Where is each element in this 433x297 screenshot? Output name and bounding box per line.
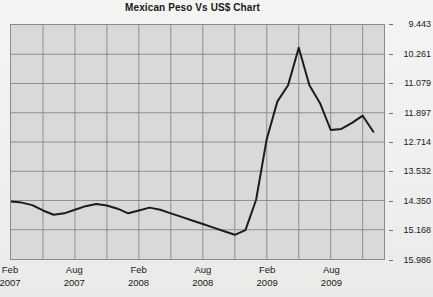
x-axis-tick-label: Feb2007 xyxy=(0,263,33,289)
y-tick-mark xyxy=(389,113,393,114)
x-tick-month: Aug xyxy=(180,263,226,276)
x-tick-year: 2009 xyxy=(244,276,290,289)
x-tick-month: Aug xyxy=(51,263,97,276)
y-axis-tick-label: 9.443 xyxy=(408,20,431,29)
x-tick-year: 2007 xyxy=(51,276,97,289)
x-tick-month: Feb xyxy=(116,263,162,276)
y-tick-mark xyxy=(389,142,393,143)
x-axis-tick-label: Feb2008 xyxy=(116,263,162,289)
chart-title: Mexican Peso Vs US$ Chart xyxy=(0,2,385,13)
x-tick-year: 2007 xyxy=(0,276,33,289)
x-tick-year: 2008 xyxy=(116,276,162,289)
x-tick-year: 2008 xyxy=(180,276,226,289)
x-tick-month: Feb xyxy=(244,263,290,276)
x-tick-month: Aug xyxy=(308,263,354,276)
y-tick-mark xyxy=(389,54,393,55)
y-axis-tick-label: 10.261 xyxy=(403,49,431,58)
x-axis-tick-label: Aug2007 xyxy=(51,263,97,289)
plot-area xyxy=(10,24,385,260)
x-axis: Feb2007Aug2007Feb2008Aug2008Feb2009Aug20… xyxy=(10,263,385,295)
y-axis-tick-label: 11.897 xyxy=(404,108,431,117)
x-tick-month: Feb xyxy=(0,263,33,276)
y-axis-tick-label: 15.168 xyxy=(403,226,431,235)
x-axis-tick-label: Aug2008 xyxy=(180,263,226,289)
y-axis: 15.98615.16814.35013.53212.71411.89711.0… xyxy=(389,24,433,260)
y-axis-tick-label: 13.532 xyxy=(403,167,431,176)
y-tick-mark xyxy=(389,83,393,84)
x-axis-tick-label: Feb2009 xyxy=(244,263,290,289)
y-tick-mark xyxy=(389,230,393,231)
y-axis-tick-label: 11.079 xyxy=(404,79,431,88)
x-tick-year: 2009 xyxy=(308,276,354,289)
x-axis-tick-label: Aug2009 xyxy=(308,263,354,289)
peso-rate-line xyxy=(11,25,384,259)
chart-container: Mexican Peso Vs US$ Chart 15.98615.16814… xyxy=(0,0,433,297)
y-axis-tick-label: 15.986 xyxy=(403,256,431,265)
y-tick-mark xyxy=(389,260,393,261)
y-tick-mark xyxy=(389,201,393,202)
y-tick-mark xyxy=(389,24,393,25)
y-tick-mark xyxy=(389,171,393,172)
y-axis-tick-label: 12.714 xyxy=(403,138,431,147)
y-axis-tick-label: 14.350 xyxy=(403,196,431,205)
